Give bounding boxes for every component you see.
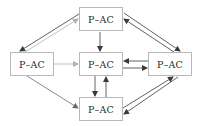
edge-left-to-bottom <box>27 76 78 108</box>
node-bottom-label: P–AC <box>88 104 114 115</box>
node-top: P–AC <box>79 7 123 31</box>
edge-right-to-bottom <box>124 77 178 114</box>
edge-left-to-top <box>25 19 78 52</box>
edge-right-to-top <box>124 19 174 52</box>
node-center: P–AC <box>79 52 123 76</box>
node-bottom: P–AC <box>79 97 123 121</box>
node-center-label: P–AC <box>88 59 114 70</box>
edge-bottom-to-right <box>123 77 173 108</box>
node-top-label: P–AC <box>88 14 114 25</box>
node-right: P–AC <box>148 52 192 76</box>
p-ac-network-diagram: P–AC P–AC P–AC P–AC P–AC <box>0 0 201 126</box>
edge-top-to-right <box>124 13 180 51</box>
node-left: P–AC <box>10 52 54 76</box>
edge-top-to-left <box>20 14 79 51</box>
node-left-label: P–AC <box>19 59 45 70</box>
node-right-label: P–AC <box>157 59 183 70</box>
